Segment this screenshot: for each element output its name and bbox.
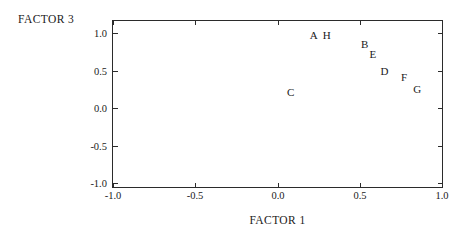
x-axis-tick-label: -0.5 <box>187 190 204 201</box>
x-axis-tick-label: 0.0 <box>271 190 284 201</box>
plot-frame <box>112 20 443 188</box>
data-point-f: F <box>401 71 407 82</box>
y-axis-tick <box>438 33 443 34</box>
data-point-e: E <box>370 49 377 60</box>
data-point-h: H <box>323 30 331 41</box>
data-point-a: A <box>310 30 318 41</box>
y-axis-title: FACTOR 3 <box>18 13 74 25</box>
y-axis-tick <box>113 33 118 34</box>
y-axis-tick <box>438 71 443 72</box>
y-axis-tick <box>113 146 118 147</box>
x-axis-tick-label: 1.0 <box>435 190 448 201</box>
y-axis-tick <box>438 183 443 184</box>
y-axis-tick <box>438 108 443 109</box>
data-point-b: B <box>361 38 368 49</box>
y-axis-tick <box>438 146 443 147</box>
y-axis-tick <box>113 108 118 109</box>
data-point-c: C <box>287 87 294 98</box>
y-axis-tick-label: 0.5 <box>73 66 107 77</box>
x-axis-tick <box>195 183 196 188</box>
scatter-plot-figure: FACTOR 3 -1.0-0.50.00.51.01.00.50.0-0.5-… <box>0 0 467 242</box>
y-axis-tick-label: 1.0 <box>73 28 107 39</box>
x-axis-title: FACTOR 1 <box>249 214 305 226</box>
y-axis-tick-label: -1.0 <box>73 178 107 189</box>
x-axis-tick <box>360 183 361 188</box>
x-axis-tick-label: 0.5 <box>353 190 366 201</box>
x-axis-title-wrap: FACTOR 1 <box>0 214 467 226</box>
x-axis-tick <box>195 20 196 25</box>
x-axis-tick <box>278 183 279 188</box>
y-axis-tick-label: -0.5 <box>73 141 107 152</box>
x-axis-tick <box>442 20 443 25</box>
data-point-g: G <box>413 83 421 94</box>
y-axis-tick <box>113 183 118 184</box>
x-axis-tick <box>113 20 114 25</box>
y-axis-tick-label: 0.0 <box>73 103 107 114</box>
x-axis-tick <box>360 20 361 25</box>
x-axis-tick <box>278 20 279 25</box>
y-axis-tick <box>113 71 118 72</box>
data-point-d: D <box>380 65 388 76</box>
x-axis-tick-label: -1.0 <box>105 190 122 201</box>
